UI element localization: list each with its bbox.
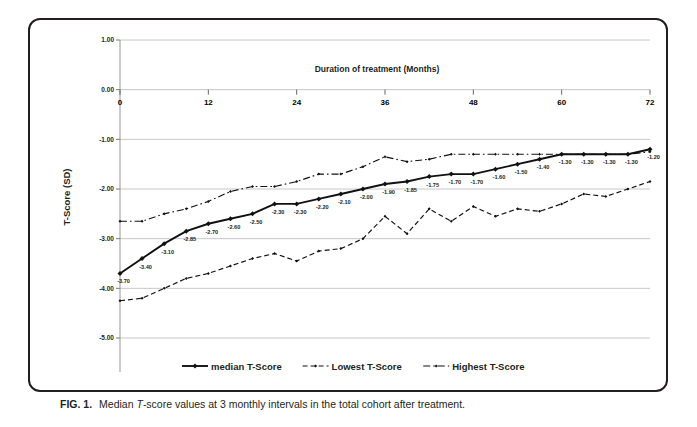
series-marker-0 <box>316 196 321 201</box>
data-label: -3.10 <box>161 249 174 255</box>
series-marker-0 <box>427 174 432 179</box>
series-marker-2 <box>428 158 431 161</box>
legend-label-1: Lowest T-Score <box>332 361 402 372</box>
series-marker-0 <box>383 182 388 187</box>
data-label: -2.85 <box>183 236 196 242</box>
series-marker-0 <box>206 221 211 226</box>
x-tick-label: 48 <box>469 98 478 107</box>
legend-marker-1 <box>314 364 317 367</box>
legend-marker-0 <box>193 364 198 369</box>
data-label: -1.30 <box>581 159 594 165</box>
data-label: -1.40 <box>537 164 550 170</box>
data-label: -1.60 <box>493 174 506 180</box>
x-tick-label: 72 <box>646 98 655 107</box>
series-marker-0 <box>493 167 498 172</box>
series-marker-2 <box>273 185 276 188</box>
series-marker-2 <box>339 173 342 176</box>
data-label: -1.30 <box>559 159 572 165</box>
series-marker-0 <box>360 187 365 192</box>
series-marker-1 <box>119 299 122 302</box>
y-tick-label: -5.00 <box>99 334 114 341</box>
series-marker-0 <box>471 172 476 177</box>
series-marker-0 <box>338 191 343 196</box>
series-marker-2 <box>516 153 519 156</box>
data-label: -2.60 <box>228 224 241 230</box>
data-label: -2.10 <box>338 199 351 205</box>
data-label: -1.20 <box>647 154 660 160</box>
series-marker-0 <box>515 162 520 167</box>
series-marker-2 <box>251 185 254 188</box>
data-label: -1.70 <box>448 179 461 185</box>
y-tick-label: -1.00 <box>99 136 114 143</box>
series-marker-2 <box>163 212 166 215</box>
series-marker-1 <box>626 188 629 191</box>
data-label: -2.70 <box>205 229 218 235</box>
series-marker-1 <box>207 272 210 275</box>
series-marker-1 <box>229 264 232 267</box>
x-tick-label: 36 <box>381 98 390 107</box>
data-label: -2.30 <box>272 209 285 215</box>
chart-plot: 1.000.00-1.00-2.00-3.00-4.00-5.000122436… <box>30 20 670 394</box>
x-tick-label: 0 <box>118 98 123 107</box>
data-label: -1.90 <box>382 189 395 195</box>
data-label: -1.70 <box>470 179 483 185</box>
series-marker-1 <box>516 207 519 210</box>
series-marker-2 <box>406 160 409 163</box>
series-marker-0 <box>405 179 410 184</box>
y-axis-title: T-Score (SD) <box>61 168 72 225</box>
series-marker-2 <box>119 220 122 223</box>
data-label: -3.70 <box>117 278 130 284</box>
series-marker-2 <box>494 153 497 156</box>
series-marker-1 <box>649 180 652 183</box>
y-tick-label: 1.00 <box>101 36 114 43</box>
data-label: -1.85 <box>404 187 417 193</box>
figure-number: FIG. 1. <box>60 398 92 410</box>
series-marker-2 <box>229 190 232 193</box>
series-marker-1 <box>251 257 254 260</box>
data-label: -3.40 <box>139 264 152 270</box>
series-marker-2 <box>295 180 298 183</box>
x-tick-label: 12 <box>204 98 213 107</box>
series-marker-1 <box>604 195 607 198</box>
data-label: -1.75 <box>426 182 439 188</box>
series-marker-1 <box>141 297 144 300</box>
series-marker-2 <box>384 155 387 158</box>
series-marker-2 <box>141 220 144 223</box>
series-marker-0 <box>449 172 454 177</box>
data-label: -1.50 <box>515 169 528 175</box>
series-marker-1 <box>163 287 166 290</box>
legend-label-0: median T-Score <box>211 361 282 372</box>
series-marker-1 <box>273 252 276 255</box>
series-marker-2 <box>450 153 453 156</box>
data-label: -2.50 <box>250 219 263 225</box>
legend-label-2: Highest T-Score <box>452 361 524 372</box>
series-marker-1 <box>560 202 563 205</box>
y-tick-label: -2.00 <box>99 185 114 192</box>
y-tick-label: 0.00 <box>101 86 114 93</box>
data-label: -2.30 <box>294 209 307 215</box>
legend-marker-2 <box>435 364 438 367</box>
y-tick-label: -3.00 <box>99 235 114 242</box>
series-marker-0 <box>228 216 233 221</box>
data-label: -1.30 <box>625 159 638 165</box>
figure-card: 1.000.00-1.00-2.00-3.00-4.00-5.000122436… <box>28 18 668 392</box>
series-marker-1 <box>582 192 585 195</box>
series-marker-2 <box>472 153 475 156</box>
x-tick-label: 60 <box>557 98 566 107</box>
series-marker-0 <box>294 201 299 206</box>
data-label: -2.00 <box>360 194 373 200</box>
figure-caption: FIG. 1.Median T-score values at 3 monthl… <box>60 398 660 410</box>
series-marker-2 <box>185 207 188 210</box>
series-marker-2 <box>538 153 541 156</box>
x-axis-title: Duration of treatment (Months) <box>315 64 440 74</box>
data-label: -1.30 <box>603 159 616 165</box>
series-marker-1 <box>185 277 188 280</box>
y-tick-label: -4.00 <box>99 285 114 292</box>
x-tick-label: 24 <box>292 98 301 107</box>
series-marker-0 <box>537 157 542 162</box>
series-line-1 <box>120 182 650 301</box>
series-marker-2 <box>317 173 320 176</box>
series-marker-1 <box>538 210 541 213</box>
caption-post: -score values at 3 monthly intervals in … <box>143 398 465 410</box>
data-label: -2.20 <box>316 204 329 210</box>
